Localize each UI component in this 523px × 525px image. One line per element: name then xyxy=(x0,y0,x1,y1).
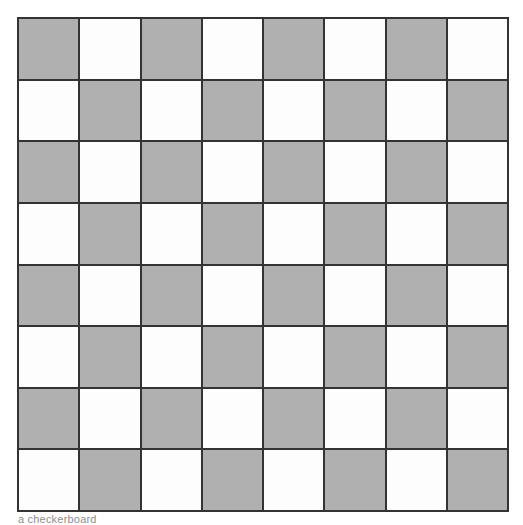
board-cell-r1c8[interactable] xyxy=(448,19,507,79)
board-row xyxy=(19,142,507,202)
board-cell-r7c7[interactable] xyxy=(387,389,446,449)
board-cell-r2c2[interactable] xyxy=(80,81,139,141)
board-cell-r8c1[interactable] xyxy=(19,450,78,510)
board-cell-r6c1[interactable] xyxy=(19,327,78,387)
board-cell-r7c5[interactable] xyxy=(264,389,323,449)
board-cell-r2c6[interactable] xyxy=(325,81,384,141)
board-cell-r3c2[interactable] xyxy=(80,142,139,202)
board-cell-r8c7[interactable] xyxy=(387,450,446,510)
board-cell-r5c1[interactable] xyxy=(19,266,78,326)
board-cell-r4c5[interactable] xyxy=(264,204,323,264)
board-cell-r4c8[interactable] xyxy=(448,204,507,264)
board-cell-r4c7[interactable] xyxy=(387,204,446,264)
board-cell-r8c2[interactable] xyxy=(80,450,139,510)
board-cell-r6c7[interactable] xyxy=(387,327,446,387)
board-cell-r3c6[interactable] xyxy=(325,142,384,202)
board-cell-r8c5[interactable] xyxy=(264,450,323,510)
board-cell-r5c7[interactable] xyxy=(387,266,446,326)
board-cell-r6c6[interactable] xyxy=(325,327,384,387)
board-cell-r5c3[interactable] xyxy=(142,266,201,326)
board-cell-r5c8[interactable] xyxy=(448,266,507,326)
board-row xyxy=(19,81,507,141)
board-cell-r4c6[interactable] xyxy=(325,204,384,264)
figure-canvas: a checkerboard xyxy=(0,0,523,525)
board-cell-r3c8[interactable] xyxy=(448,142,507,202)
board-cell-r6c3[interactable] xyxy=(142,327,201,387)
board-cell-r6c8[interactable] xyxy=(448,327,507,387)
board-cell-r3c3[interactable] xyxy=(142,142,201,202)
board-cell-r1c5[interactable] xyxy=(264,19,323,79)
board-cell-r6c4[interactable] xyxy=(203,327,262,387)
board-cell-r5c5[interactable] xyxy=(264,266,323,326)
board-cell-r8c8[interactable] xyxy=(448,450,507,510)
board-cell-r3c1[interactable] xyxy=(19,142,78,202)
board-cell-r3c4[interactable] xyxy=(203,142,262,202)
board-cell-r3c7[interactable] xyxy=(387,142,446,202)
board-cell-r1c7[interactable] xyxy=(387,19,446,79)
board-cell-r7c8[interactable] xyxy=(448,389,507,449)
board-cell-r5c6[interactable] xyxy=(325,266,384,326)
board-row xyxy=(19,450,507,510)
board-cell-r5c2[interactable] xyxy=(80,266,139,326)
board-cell-r4c1[interactable] xyxy=(19,204,78,264)
board-cell-r2c7[interactable] xyxy=(387,81,446,141)
board-row xyxy=(19,204,507,264)
board-cell-r1c2[interactable] xyxy=(80,19,139,79)
board-cell-r1c1[interactable] xyxy=(19,19,78,79)
board-cell-r7c6[interactable] xyxy=(325,389,384,449)
board-row xyxy=(19,327,507,387)
board-cell-r4c2[interactable] xyxy=(80,204,139,264)
board-cell-r8c3[interactable] xyxy=(142,450,201,510)
board-cell-r1c4[interactable] xyxy=(203,19,262,79)
board-cell-r4c4[interactable] xyxy=(203,204,262,264)
board-cell-r7c3[interactable] xyxy=(142,389,201,449)
board-cell-r2c1[interactable] xyxy=(19,81,78,141)
board-cell-r1c6[interactable] xyxy=(325,19,384,79)
board-cell-r2c4[interactable] xyxy=(203,81,262,141)
board-row xyxy=(19,19,507,79)
board-cell-r3c5[interactable] xyxy=(264,142,323,202)
board-cell-r6c2[interactable] xyxy=(80,327,139,387)
clipped-caption: a checkerboard xyxy=(18,514,198,525)
checkerboard-grid xyxy=(17,17,509,512)
board-cell-r8c4[interactable] xyxy=(203,450,262,510)
board-cell-r2c8[interactable] xyxy=(448,81,507,141)
board-cell-r7c2[interactable] xyxy=(80,389,139,449)
board-cell-r7c4[interactable] xyxy=(203,389,262,449)
board-cell-r7c1[interactable] xyxy=(19,389,78,449)
board-cell-r8c6[interactable] xyxy=(325,450,384,510)
board-cell-r6c5[interactable] xyxy=(264,327,323,387)
board-cell-r5c4[interactable] xyxy=(203,266,262,326)
board-row xyxy=(19,266,507,326)
board-cell-r1c3[interactable] xyxy=(142,19,201,79)
clipped-caption-text: a checkerboard xyxy=(18,514,97,525)
board-cell-r4c3[interactable] xyxy=(142,204,201,264)
board-cell-r2c5[interactable] xyxy=(264,81,323,141)
board-cell-r2c3[interactable] xyxy=(142,81,201,141)
board-row xyxy=(19,389,507,449)
